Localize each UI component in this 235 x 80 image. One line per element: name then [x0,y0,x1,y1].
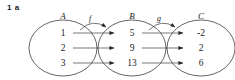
set-label-c: C [198,11,205,21]
set-mapping-diagram: A B C f g 1 2 3 5 9 13 -2 2 6 [0,0,235,80]
set-a-element: 3 [61,58,66,68]
mapping-diagram-figure: 1 a A B C f g 1 2 3 5 [0,0,235,80]
function-label-f: f [89,14,93,23]
set-c-element: 2 [199,43,204,53]
set-b-element: 5 [130,28,135,38]
set-b-element: 13 [127,58,137,68]
set-b-element: 9 [130,43,135,53]
set-c-element: 6 [199,58,204,68]
set-label-a: A [59,11,66,21]
set-a-element: 1 [61,28,66,38]
set-c-element: -2 [197,28,205,38]
set-label-b: B [129,11,135,21]
function-arrow-g [149,23,175,30]
set-a-element: 2 [61,43,66,53]
function-arrow-f [80,23,106,30]
function-label-g: g [157,14,161,23]
